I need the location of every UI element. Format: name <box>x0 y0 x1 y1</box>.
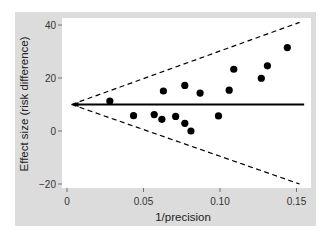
plot-area <box>62 18 311 188</box>
x-tick-label: 0.15 <box>287 196 307 207</box>
data-point <box>226 87 233 94</box>
y-tick-label: 20 <box>45 73 57 84</box>
data-point <box>130 112 137 119</box>
x-tick-label: 0.05 <box>134 196 154 207</box>
data-point <box>197 90 204 97</box>
data-point <box>160 87 167 94</box>
x-tick-label: 0 <box>64 196 70 207</box>
x-axis: 00.050.100.15 <box>64 188 306 207</box>
data-point <box>172 113 179 120</box>
data-point <box>230 66 237 73</box>
y-tick-label: −20 <box>39 179 56 190</box>
data-point <box>258 75 265 82</box>
y-axis: 40200−20 <box>39 20 62 190</box>
data-point <box>151 111 158 118</box>
data-point <box>158 116 165 123</box>
y-axis-title: Effect size (risk difference) <box>18 36 30 171</box>
x-tick-label: 0.10 <box>210 196 230 207</box>
x-axis-title: 1/precision <box>155 211 211 223</box>
data-point <box>215 112 222 119</box>
data-point <box>181 120 188 127</box>
data-point <box>106 97 113 104</box>
data-point <box>181 82 188 89</box>
y-tick-label: 0 <box>50 126 56 137</box>
data-point <box>187 127 194 134</box>
data-point <box>284 44 291 51</box>
data-point <box>264 62 271 69</box>
funnel-plot: 40200−20 00.050.100.15 1/precision Effec… <box>0 0 333 238</box>
y-tick-label: 40 <box>45 20 57 31</box>
